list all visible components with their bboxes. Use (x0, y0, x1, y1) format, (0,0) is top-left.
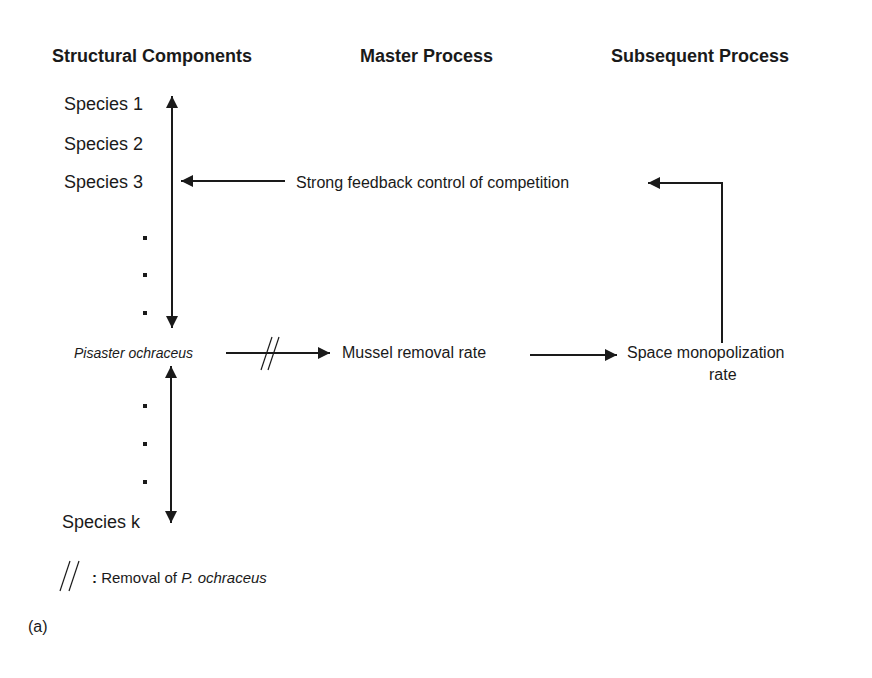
ellipsis-dots (143, 236, 147, 484)
space-to-feedback-arrow (648, 183, 722, 343)
diagram-arrows (0, 0, 872, 678)
legend-break-icon (60, 561, 79, 591)
